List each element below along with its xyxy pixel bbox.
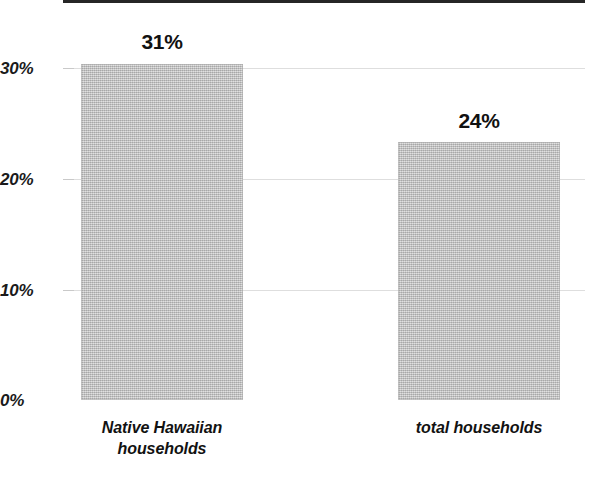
category-label-line-2: households — [62, 438, 262, 459]
y-axis-label-30: 30% — [0, 59, 33, 78]
tick-20 — [63, 179, 74, 180]
category-label-line-1: total households — [416, 419, 542, 436]
y-axis-label-20: 20% — [0, 170, 33, 189]
category-label-total-households: total households — [379, 417, 579, 438]
tick-30 — [63, 68, 74, 69]
y-axis-label-0: 0% — [0, 391, 24, 410]
bar-total-households — [398, 142, 560, 400]
category-label-line-1: Native Hawaiian — [102, 419, 222, 436]
tick-10 — [63, 290, 74, 291]
y-axis-label-20-wrap: 20% — [0, 171, 60, 189]
bar-value-label-total-households: 24% — [398, 110, 560, 131]
y-axis-label-0-wrap: 0% — [0, 392, 60, 410]
y-axis-label-10-wrap: 10% — [0, 282, 60, 300]
y-axis-label-30-wrap: 30% — [0, 60, 60, 78]
y-axis-label-10: 10% — [0, 281, 33, 300]
category-label-native-hawaiian-households: Native Hawaiian households — [62, 417, 262, 459]
bar-chart: 30% 20% 10% 0% 31% 24% Native Hawaiian h… — [0, 0, 602, 478]
x-axis-baseline — [63, 0, 585, 3]
bar-native-hawaiian-households — [81, 64, 243, 400]
bar-value-label-native-hawaiian-households: 31% — [81, 31, 243, 52]
